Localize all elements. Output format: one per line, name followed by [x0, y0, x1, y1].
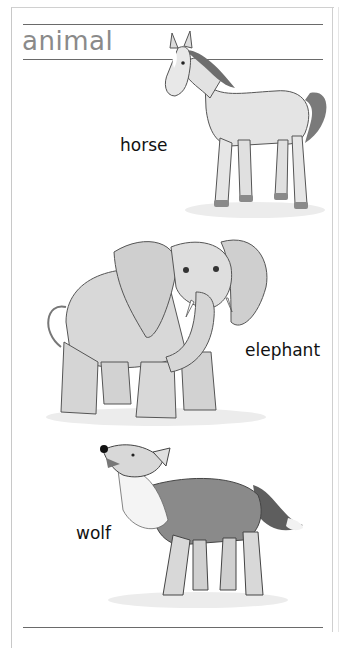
page-title: animal [22, 26, 113, 56]
elephant-illustration [36, 232, 276, 432]
title-top-rule [23, 24, 323, 25]
page-edge-shadow [338, 7, 339, 632]
wolf-label: wolf [76, 523, 111, 543]
horse-label: horse [120, 135, 167, 155]
bottom-rule [23, 627, 323, 628]
horse-illustration [160, 28, 330, 223]
elephant-label: elephant [245, 340, 320, 360]
wolf-illustration [98, 440, 308, 615]
page-edge [332, 7, 333, 632]
